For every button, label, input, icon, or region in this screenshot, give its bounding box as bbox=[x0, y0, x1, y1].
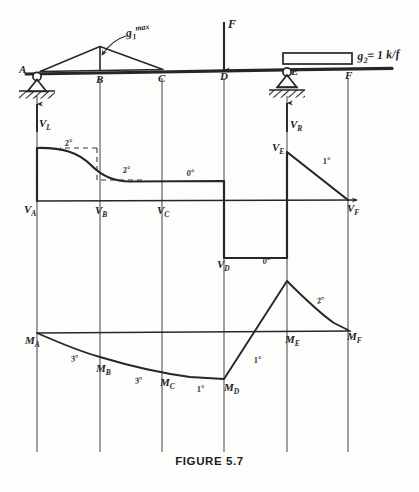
beam-station-label-C: C bbox=[158, 73, 165, 84]
shear-point-label-VA: VA bbox=[24, 204, 36, 218]
MD-subscript: D bbox=[234, 387, 239, 396]
moment-degree-annotation-5: 2° bbox=[316, 295, 325, 305]
MD-symbol: M bbox=[224, 381, 234, 393]
shear-degree-annotation-5: 1° bbox=[322, 156, 331, 166]
pin-support-A bbox=[19, 72, 55, 98]
shear-point-label-VD: VD bbox=[217, 259, 230, 273]
VL-subscript: L bbox=[46, 123, 51, 132]
MA-subscript: A bbox=[35, 340, 40, 349]
VD-subscript: D bbox=[224, 264, 229, 273]
shear-degree-annotation-2: 2° bbox=[122, 165, 131, 175]
shear-degree-annotation-3: 0° bbox=[186, 168, 195, 177]
figure-caption: FIGURE 5.7 bbox=[0, 455, 419, 467]
shear-point-label-VF: VF bbox=[347, 203, 359, 217]
ME-symbol: M bbox=[285, 333, 295, 345]
beam-station-label-F: F bbox=[345, 70, 352, 81]
g2-value: = 1 k/f bbox=[367, 47, 400, 63]
moment-degree-annotation-3: 1° bbox=[196, 384, 205, 394]
beam-station-label-D: D bbox=[220, 71, 228, 82]
shear-point-label-VC: VC bbox=[157, 205, 169, 219]
point-load-label-F: F bbox=[228, 18, 236, 30]
MB-symbol: M bbox=[96, 362, 106, 374]
shear-point-label-VE: VE bbox=[272, 142, 284, 156]
shear-degree-annotation-4: 0° bbox=[262, 256, 271, 265]
figure-page: A B C D E F g1max F g2= 1 k/f VL VR VA V… bbox=[0, 0, 419, 492]
MB-subscript: B bbox=[106, 368, 111, 377]
triangular-load-g1 bbox=[40, 47, 163, 72]
moment-point-label-MF: MF bbox=[347, 331, 362, 345]
shear-baseline bbox=[37, 200, 357, 201]
VA-subscript: A bbox=[31, 209, 36, 218]
moment-diagram-group bbox=[37, 281, 351, 379]
reaction-label-VR: VR bbox=[290, 119, 302, 133]
shear-diagram-group bbox=[37, 148, 357, 258]
moment-point-label-ME: ME bbox=[285, 334, 300, 348]
moment-degree-annotation-2: 3° bbox=[134, 375, 143, 385]
beam-station-label-E: E bbox=[291, 66, 298, 77]
moment-baseline bbox=[37, 331, 351, 333]
MC-subscript: C bbox=[170, 382, 175, 391]
VC-subscript: C bbox=[164, 210, 169, 219]
shear-point-label-VB: VB bbox=[95, 205, 107, 219]
uniform-load-g2-block bbox=[283, 53, 352, 64]
VB-subscript: B bbox=[102, 210, 107, 219]
shear-curve bbox=[37, 148, 348, 258]
beam-station-label-A: A bbox=[19, 64, 26, 75]
shear-degree-annotation-1: 2° bbox=[64, 138, 73, 148]
VF-subscript: F bbox=[354, 208, 359, 217]
beam-group bbox=[19, 22, 392, 132]
MA-symbol: M bbox=[25, 334, 35, 346]
VE-subscript: E bbox=[279, 147, 284, 156]
MC-symbol: M bbox=[160, 376, 170, 388]
ME-subscript: E bbox=[295, 339, 300, 348]
MF-subscript: F bbox=[357, 336, 362, 345]
moment-point-label-MD: MD bbox=[224, 382, 239, 396]
moment-degree-annotation-1: 3° bbox=[70, 353, 79, 363]
g1-subscript: 1 bbox=[132, 32, 137, 41]
beam-station-label-B: B bbox=[96, 74, 103, 85]
moment-point-label-MB: MB bbox=[96, 363, 111, 377]
g1-superscript: max bbox=[135, 22, 150, 33]
uniform-load-label-g2: g2= 1 k/f bbox=[357, 48, 400, 66]
station-lines bbox=[37, 78, 348, 452]
roller-support-E bbox=[269, 68, 305, 98]
moment-point-label-MC: MC bbox=[160, 377, 175, 391]
moment-degree-annotation-4: 1° bbox=[253, 355, 262, 365]
figure-drawing bbox=[0, 0, 419, 492]
triangular-load-label-g1: g1max bbox=[125, 23, 151, 42]
moment-point-label-MA: MA bbox=[25, 335, 40, 349]
reaction-label-VL: VL bbox=[39, 118, 51, 132]
moment-curve bbox=[37, 281, 348, 379]
MF-symbol: M bbox=[347, 330, 357, 342]
VR-subscript: R bbox=[297, 124, 302, 133]
